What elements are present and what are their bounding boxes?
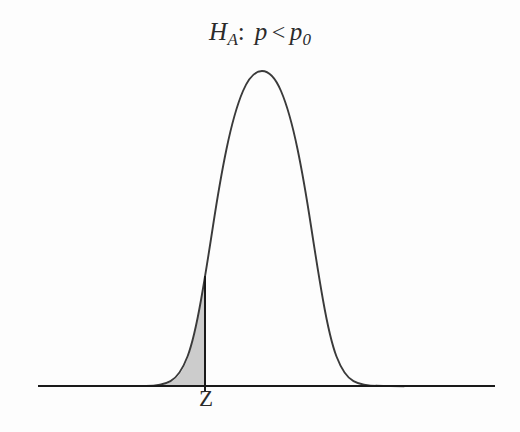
hypothesis-test-figure: HA: p<p0 Z (0, 0, 520, 432)
rejection-region-shading (148, 277, 205, 386)
normal-curve-plot (0, 0, 520, 432)
critical-value-label-z: Z (190, 386, 222, 412)
normal-density-curve (146, 71, 378, 386)
